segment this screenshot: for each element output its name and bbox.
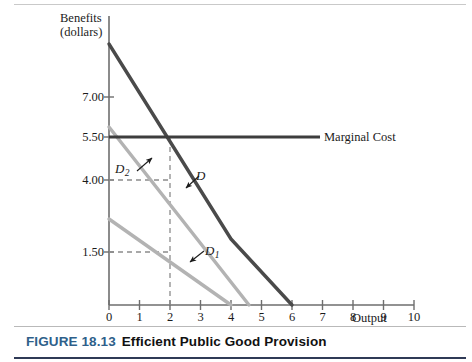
x-tick-label-2: 2 (160, 310, 180, 325)
x-tick-label-3: 3 (191, 310, 211, 325)
curve-label-d1: D1 (205, 243, 220, 260)
y-tick-label-400: 4.00 (58, 173, 104, 188)
y-tick-label-700: 7.00 (58, 90, 104, 105)
curve-label-d1-subscript: 1 (214, 250, 219, 260)
figure-caption: FIGURE 18.13Efficient Public Good Provis… (26, 334, 327, 349)
curve-label-d2-subscript: 2 (124, 168, 129, 178)
caption-top-rule (14, 326, 466, 327)
figure-title: Efficient Public Good Provision (116, 334, 327, 349)
chart-svg (0, 0, 472, 330)
curve-label-d: D (196, 168, 205, 184)
x-tick-label-9: 9 (374, 310, 394, 325)
y-axis-title-line2: (dollars) (60, 25, 102, 39)
curve-label-d1-base: D (205, 243, 214, 258)
x-tick-label-6: 6 (282, 310, 302, 325)
y-axis-title-line1: Benefits (60, 11, 102, 25)
y-tick-label-150: 1.50 (58, 245, 104, 260)
curve-label-d2: D2 (115, 161, 130, 178)
figure-number: FIGURE 18.13 (26, 334, 116, 349)
x-tick-label-7: 7 (313, 310, 333, 325)
curve-label-d2-base: D (115, 161, 124, 176)
x-tick-label-5: 5 (252, 310, 272, 325)
leader-arrow-d1 (190, 251, 204, 262)
caption-bottom-rule (14, 357, 466, 359)
x-tick-label-10: 10 (404, 310, 424, 325)
y-axis-title: Benefits (dollars) (60, 11, 102, 39)
figure-container: Benefits (dollars) Output 7.00 5.50 4.00… (0, 0, 472, 362)
y-tick-label-550: 5.50 (58, 130, 104, 145)
chart-plot-area: Benefits (dollars) Output 7.00 5.50 4.00… (0, 0, 472, 330)
x-tick-label-8: 8 (343, 310, 363, 325)
x-tick-label-4: 4 (221, 310, 241, 325)
curve-label-marginal-cost: Marginal Cost (324, 130, 396, 145)
x-tick-label-0: 0 (99, 310, 119, 325)
x-tick-label-1: 1 (130, 310, 150, 325)
